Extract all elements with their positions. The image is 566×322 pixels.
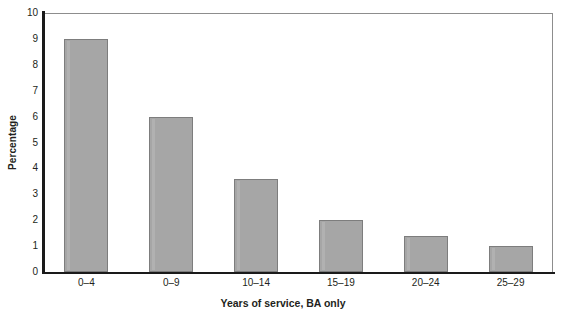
y-axis-tick-label: 6 <box>14 112 38 122</box>
y-axis-tick-label: 0 <box>14 267 38 277</box>
y-axis-tick-label: 5 <box>14 138 38 148</box>
y-axis-line <box>42 11 45 274</box>
x-axis-title: Years of service, BA only <box>0 297 566 309</box>
x-axis-tick-label: 20–24 <box>386 278 466 288</box>
bar[interactable] <box>149 117 193 272</box>
y-axis-tick-label: 7 <box>14 86 38 96</box>
plot-area <box>44 13 553 272</box>
x-axis-tick-label: 25–29 <box>471 278 551 288</box>
bar[interactable] <box>404 236 448 272</box>
y-axis-tick-label: 8 <box>14 60 38 70</box>
x-axis-tick-label: 0–9 <box>131 278 211 288</box>
bar-highlight-stripe <box>492 248 495 270</box>
bar-chart-figure: Percentage 012345678910 0–40–910–1415–19… <box>0 0 566 322</box>
y-axis-tick-label: 9 <box>14 34 38 44</box>
bar[interactable] <box>489 246 533 272</box>
y-axis-tick-label: 2 <box>14 215 38 225</box>
bar[interactable] <box>319 220 363 272</box>
bar-highlight-stripe <box>152 119 155 270</box>
bar-highlight-stripe <box>322 222 325 270</box>
y-axis-tick-label: 10 <box>14 8 38 18</box>
y-axis-tick-label: 1 <box>14 241 38 251</box>
bar-highlight-stripe <box>67 41 70 270</box>
y-axis-tick-label: 4 <box>14 163 38 173</box>
x-axis-line <box>42 272 555 275</box>
x-axis-tick-label: 0–4 <box>46 278 126 288</box>
bar[interactable] <box>64 39 108 272</box>
bar-highlight-stripe <box>237 181 240 270</box>
x-axis-tick-label: 15–19 <box>301 278 381 288</box>
x-axis-tick-label: 10–14 <box>216 278 296 288</box>
bar[interactable] <box>234 179 278 272</box>
bar-highlight-stripe <box>407 238 410 270</box>
y-axis-tick-label: 3 <box>14 189 38 199</box>
